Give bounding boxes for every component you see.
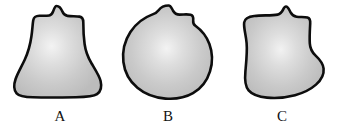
shape-b-label: B [113,106,223,126]
shape-item-a: A [6,0,114,134]
shape-a-svg [6,0,114,108]
shape-b-outline [123,6,212,99]
shape-b-svg [113,0,223,108]
shape-a-label: A [6,106,114,126]
shape-item-b: B [113,0,223,134]
shape-c-svg [224,0,340,108]
shape-item-c: C [224,0,340,134]
shape-c-label: C [224,106,340,126]
shape-comparison-figure: A B [0,0,343,134]
shape-a-outline [14,6,101,97]
shape-c-outline [244,7,324,98]
